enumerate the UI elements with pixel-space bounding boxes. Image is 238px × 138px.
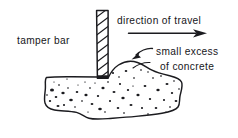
tamper-bar-diagram: tamper bar direction of travel small exc… (0, 0, 238, 138)
small-excess-label-line1: small excess (156, 46, 219, 57)
small-excess-label-line2: of concrete (160, 61, 214, 72)
tamper-bar-label: tamper bar (17, 35, 70, 46)
tamper-bar-outline (97, 11, 109, 79)
direction-of-travel-label: direction of travel (117, 15, 201, 26)
direction-of-travel-arrow (129, 29, 208, 37)
diagram-canvas: tamper bar direction of travel small exc… (0, 0, 238, 138)
